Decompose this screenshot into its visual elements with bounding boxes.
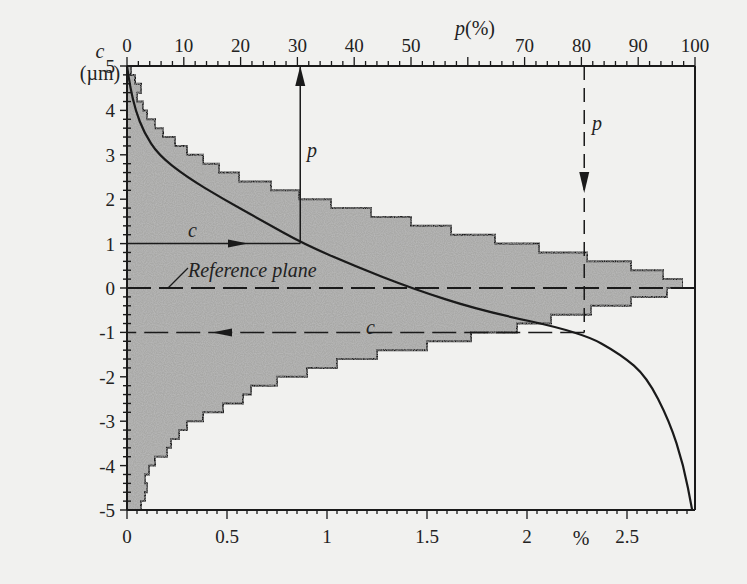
y-tick-label: -2 [99, 367, 115, 388]
top-axis-title: p(%) [453, 17, 495, 40]
bottom-axis-title: % [573, 527, 590, 549]
bearing-curve-chart: 543210-1-2-3-4-50102030405070809010000.5… [0, 0, 747, 584]
y-tick-label: 0 [106, 278, 116, 299]
y-axis-title-c: c [96, 40, 105, 62]
arrowhead-up-icon [295, 66, 305, 86]
top-tick-label: 80 [572, 35, 591, 56]
bottom-tick-label: 0.5 [215, 526, 239, 547]
top-tick-label: 50 [402, 35, 421, 56]
bottom-tick-label: 2 [522, 526, 532, 547]
y-axis-title-unit: (µm) [80, 62, 120, 85]
y-tick-label: -5 [99, 500, 115, 521]
top-tick-label: 40 [345, 35, 364, 56]
bottom-tick-label: 1.5 [415, 526, 439, 547]
label-c-upper: c [188, 219, 197, 241]
top-tick-label: 70 [515, 35, 534, 56]
bottom-tick-label: 1 [322, 526, 332, 547]
label-p-upper: p [305, 139, 317, 162]
top-tick-label: 10 [174, 35, 193, 56]
bottom-tick-label: 2.5 [615, 526, 639, 547]
top-tick-label: 20 [231, 35, 250, 56]
bottom-tick-label: 0 [122, 526, 132, 547]
y-tick-label: -4 [99, 456, 115, 477]
y-tick-label: 4 [106, 100, 116, 121]
y-tick-label: -1 [99, 322, 115, 343]
label-p-right: p [590, 112, 602, 135]
y-tick-label: 3 [106, 145, 116, 166]
y-tick-label: -3 [99, 411, 115, 432]
top-tick-label: 90 [629, 35, 648, 56]
y-tick-label: 1 [106, 234, 116, 255]
top-tick-label: 30 [288, 35, 307, 56]
y-tick-label: 2 [106, 189, 116, 210]
top-tick-label: 100 [681, 35, 710, 56]
top-tick-label: 0 [122, 35, 132, 56]
reference-plane-label: Reference plane [187, 259, 317, 282]
arrowhead-down-icon [579, 172, 589, 193]
label-c-lower: c [366, 316, 375, 338]
